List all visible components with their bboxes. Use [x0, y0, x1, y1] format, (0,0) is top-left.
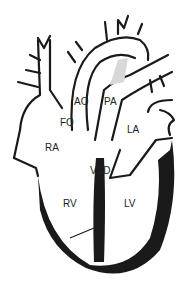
label-foramen-ovale: FO: [60, 118, 74, 128]
ventricle-wall: [38, 140, 174, 274]
label-pulmonary-artery: PA: [104, 97, 117, 107]
label-right-ventricle: RV: [63, 199, 77, 209]
label-aorta: AO: [74, 97, 88, 107]
heart-diagram: [0, 0, 188, 283]
ductus-shunt: [110, 58, 128, 85]
label-left-atrium: LA: [127, 125, 139, 135]
aortic-arch: [71, 37, 148, 130]
label-vsd: VSD: [90, 166, 111, 176]
label-left-ventricle: LV: [124, 199, 136, 209]
label-right-atrium: RA: [45, 143, 59, 153]
svc-inner-wall: [50, 40, 62, 108]
